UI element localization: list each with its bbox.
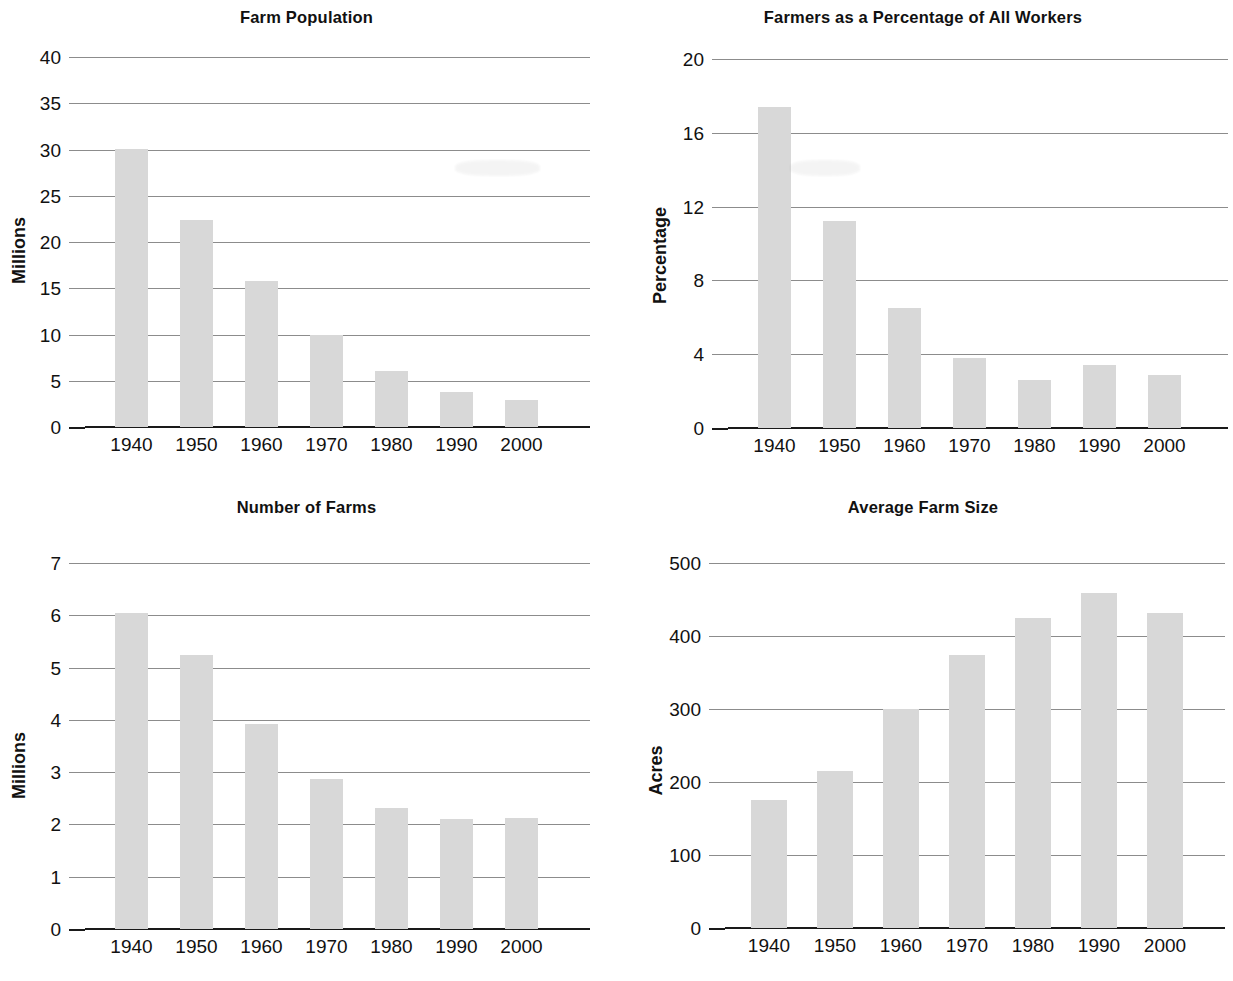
x-axis-tick-label: 1980 — [1005, 435, 1065, 457]
y-axis-tick-mark — [69, 720, 85, 721]
y-axis-tick-label: 5 — [50, 371, 61, 390]
y-axis-tick-label: 7 — [50, 554, 61, 573]
bar — [245, 281, 278, 427]
y-axis-label: Millions — [9, 711, 30, 821]
bar — [817, 771, 853, 928]
y-axis-tick-label: 3 — [50, 763, 61, 782]
y-axis-tick-mark — [709, 636, 725, 637]
bar — [245, 724, 278, 929]
y-axis-tick-label: 5 — [50, 658, 61, 677]
y-axis-tick-mark — [69, 929, 85, 931]
y-axis-tick-mark — [709, 709, 725, 710]
x-axis-tick-label: 1970 — [940, 435, 1000, 457]
x-axis-tick-label: 1980 — [362, 434, 422, 456]
gridline — [728, 133, 1228, 134]
y-axis-tick-label: 8 — [693, 271, 704, 290]
scan-artifact — [455, 160, 540, 176]
plot-area: 012345671940195019601970198019902000 — [85, 563, 590, 929]
y-axis-tick-mark — [69, 427, 85, 429]
y-axis-tick-mark — [69, 381, 85, 382]
y-axis-tick-mark — [69, 103, 85, 104]
gridline — [85, 288, 590, 289]
x-axis-tick-label: 1980 — [362, 936, 422, 958]
y-axis-tick-mark — [69, 877, 85, 878]
bar — [440, 819, 473, 929]
y-axis-tick-label: 25 — [40, 186, 61, 205]
y-axis-tick-label: 12 — [683, 197, 704, 216]
y-axis-tick-mark — [69, 563, 85, 564]
gridline — [85, 150, 590, 151]
y-axis-tick-mark — [69, 615, 85, 616]
x-axis-tick-label: 1960 — [871, 935, 931, 957]
y-axis-tick-mark — [69, 57, 85, 58]
y-axis-tick-label: 35 — [40, 94, 61, 113]
y-axis-tick-mark — [69, 772, 85, 773]
plot-area: 0481216201940195019601970198019902000 — [728, 59, 1228, 428]
y-axis-tick-label: 20 — [40, 233, 61, 252]
bar — [949, 655, 985, 928]
y-axis-tick-mark — [712, 59, 728, 60]
y-axis-tick-mark — [69, 196, 85, 197]
y-axis-tick-label: 4 — [50, 710, 61, 729]
y-axis-tick-mark — [69, 288, 85, 289]
x-axis-tick-label: 1940 — [102, 936, 162, 958]
y-axis-tick-label: 0 — [693, 419, 704, 438]
bar — [1018, 380, 1051, 428]
y-axis-tick-mark — [709, 563, 725, 564]
y-axis-label: Millions — [9, 196, 30, 306]
y-axis-tick-label: 0 — [50, 418, 61, 437]
y-axis-tick-mark — [712, 428, 728, 430]
bar — [823, 221, 856, 428]
gridline — [85, 196, 590, 197]
y-axis-tick-mark — [709, 855, 725, 856]
bar — [375, 808, 408, 929]
bar — [883, 709, 919, 928]
x-axis-tick-label: 1990 — [427, 434, 487, 456]
gridline — [85, 615, 590, 616]
chart-panel-farmers-percentage: Farmers as a Percentage of All Workers 0… — [613, 0, 1233, 490]
y-axis-tick-label: 200 — [669, 773, 701, 792]
x-axis-tick-label: 1980 — [1003, 935, 1063, 957]
bar — [751, 800, 787, 928]
gridline — [728, 59, 1228, 60]
gridline — [728, 207, 1228, 208]
x-axis-tick-label: 1940 — [739, 935, 799, 957]
y-axis-tick-mark — [69, 242, 85, 243]
x-axis-tick-label: 1960 — [232, 434, 292, 456]
y-axis-label: Percentage — [650, 201, 671, 311]
bar — [888, 308, 921, 428]
y-axis-tick-label: 4 — [693, 345, 704, 364]
bar — [115, 613, 148, 929]
bar — [953, 358, 986, 428]
bar — [180, 220, 213, 427]
chart-figure-grid: Farm Population 051015202530354019401950… — [0, 0, 1233, 981]
bar — [758, 107, 791, 428]
y-axis-tick-mark — [709, 782, 725, 783]
y-axis-tick-label: 1 — [50, 867, 61, 886]
y-axis-tick-label: 30 — [40, 140, 61, 159]
bar — [1148, 375, 1181, 428]
y-axis-tick-mark — [709, 928, 725, 930]
y-axis-tick-mark — [69, 335, 85, 336]
x-axis-tick-label: 1950 — [167, 434, 227, 456]
bar — [310, 779, 343, 929]
gridline — [85, 242, 590, 243]
gridline — [85, 103, 590, 104]
y-axis-tick-label: 400 — [669, 627, 701, 646]
x-axis-tick-label: 1970 — [297, 434, 357, 456]
gridline — [728, 354, 1228, 355]
y-axis-tick-mark — [69, 150, 85, 151]
y-axis-tick-label: 0 — [50, 920, 61, 939]
x-axis-tick-label: 1990 — [1069, 935, 1129, 957]
x-axis-tick-label: 2000 — [1135, 935, 1195, 957]
plot-area: 0510152025303540194019501960197019801990… — [85, 57, 590, 427]
x-axis-tick-label: 1970 — [297, 936, 357, 958]
y-axis-tick-label: 500 — [669, 554, 701, 573]
chart-panel-farm-population: Farm Population 051015202530354019401950… — [0, 0, 613, 490]
x-axis-tick-label: 2000 — [492, 434, 552, 456]
gridline — [85, 720, 590, 721]
x-axis-tick-label: 1950 — [805, 935, 865, 957]
bar — [1081, 593, 1117, 928]
y-axis-tick-label: 20 — [683, 50, 704, 69]
y-axis-tick-mark — [69, 824, 85, 825]
